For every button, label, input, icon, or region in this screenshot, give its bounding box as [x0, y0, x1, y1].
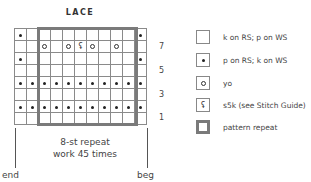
chart-cell — [99, 113, 111, 125]
purl-dot-icon — [67, 106, 70, 109]
purl-dot-icon — [91, 106, 94, 109]
repeat-note: 8-st repeat work 45 times — [35, 136, 135, 160]
chart-row-8 — [15, 29, 147, 41]
chart-cell — [15, 29, 27, 41]
yo-circle-icon — [114, 44, 119, 49]
knitting-chart-grid: ʢ — [14, 28, 147, 125]
chart-cell — [39, 77, 51, 89]
chart-cell — [39, 41, 51, 53]
chart-cell — [15, 101, 27, 113]
chart-cell — [123, 101, 135, 113]
chart-cell — [63, 77, 75, 89]
chart-cell — [27, 53, 39, 65]
chart-cell — [123, 53, 135, 65]
chart-cell — [63, 29, 75, 41]
chart-cell — [111, 65, 123, 77]
purl-dot-icon — [67, 82, 70, 85]
chart-cell — [111, 53, 123, 65]
legend-label: p on RS; k on WS — [223, 56, 287, 65]
yo-circle-icon — [42, 44, 47, 49]
purl-dot-icon — [103, 106, 106, 109]
chart-cell — [51, 89, 63, 101]
purl-dot-icon — [139, 106, 142, 109]
purl-dot-icon — [19, 82, 22, 85]
purl-dot-icon — [127, 82, 130, 85]
chart-cell — [99, 65, 111, 77]
chart-cell — [99, 77, 111, 89]
chart-cell — [15, 65, 27, 77]
repeat-note-line2: work 45 times — [35, 148, 135, 160]
chart-cell — [63, 89, 75, 101]
chart-cell — [51, 41, 63, 53]
chart-cell — [111, 113, 123, 125]
chart-cell — [27, 77, 39, 89]
purl-dot-icon — [31, 82, 34, 85]
chart-cell — [99, 89, 111, 101]
purl-dot-icon — [79, 106, 82, 109]
chart-cell — [15, 77, 27, 89]
yo-circle-icon — [66, 44, 71, 49]
chart-cell — [75, 113, 87, 125]
chart-cell — [27, 65, 39, 77]
purl-dot-icon — [139, 58, 142, 61]
purl-dot-icon — [43, 82, 46, 85]
pattern-repeat-icon — [196, 120, 210, 134]
chart-cell — [135, 53, 147, 65]
chart-cell — [75, 53, 87, 65]
yo-circle-icon — [196, 76, 210, 90]
chart-cell — [87, 29, 99, 41]
chart-cell — [87, 53, 99, 65]
purl-dot-icon — [103, 82, 106, 85]
legend-item-s5k: ʢ s5k (see Stitch Guide) — [196, 98, 306, 112]
yo-circle-icon — [90, 44, 95, 49]
chart-cell — [39, 101, 51, 113]
purl-dot-icon — [79, 82, 82, 85]
chart-row-6 — [15, 53, 147, 65]
chart-cell — [27, 41, 39, 53]
legend-item-knit: k on RS; p on WS — [196, 30, 287, 44]
purl-dot-icon — [139, 82, 142, 85]
purl-dot-icon — [55, 106, 58, 109]
chart-cell — [111, 89, 123, 101]
chart-cell — [87, 65, 99, 77]
chart-cell — [87, 89, 99, 101]
purl-dot-icon — [115, 82, 118, 85]
chart-row-5 — [15, 65, 147, 77]
s5k-icon: ʢ — [78, 42, 82, 51]
chart-cell — [39, 53, 51, 65]
chart-cell — [135, 77, 147, 89]
chart-cell — [87, 77, 99, 89]
chart-row-4 — [15, 77, 147, 89]
legend-label: s5k (see Stitch Guide) — [223, 101, 306, 110]
chart-cell — [15, 41, 27, 53]
chart-cell — [27, 29, 39, 41]
purl-dot-icon — [43, 106, 46, 109]
blank-square-icon — [196, 30, 210, 44]
chart-cell — [39, 113, 51, 125]
chart-cell — [135, 101, 147, 113]
beg-marker-line — [147, 128, 148, 168]
chart-row-1 — [15, 113, 147, 125]
chart-cell — [27, 101, 39, 113]
chart-cell — [123, 77, 135, 89]
chart-cell — [63, 101, 75, 113]
row-number-7: 7 — [159, 42, 164, 51]
dot-square-icon — [196, 53, 210, 67]
chart-cell — [51, 101, 63, 113]
end-marker-line — [15, 128, 16, 168]
chart-cell — [135, 89, 147, 101]
chart-cell — [99, 29, 111, 41]
row-number-5: 5 — [159, 66, 164, 75]
chart-cell — [15, 113, 27, 125]
chart-cell — [63, 113, 75, 125]
chart-cell: ʢ — [75, 41, 87, 53]
purl-dot-icon — [19, 34, 22, 37]
chart-cell — [75, 29, 87, 41]
purl-dot-icon — [127, 106, 130, 109]
chart-cell — [87, 101, 99, 113]
chart-row-7: ʢ — [15, 41, 147, 53]
chart-cell — [135, 41, 147, 53]
chart-cell — [99, 101, 111, 113]
chart-cell — [63, 53, 75, 65]
chart-cell — [123, 41, 135, 53]
